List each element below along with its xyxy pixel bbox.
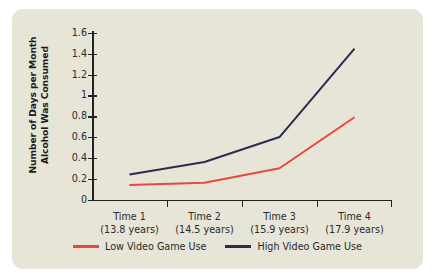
series-lines [92,31,392,201]
legend-swatch-low [73,245,99,247]
y-tick-label: 0.8 [72,109,87,122]
y-tick-mark [88,54,97,55]
x-tick-mark [391,200,392,207]
axes: 00.20.40.60.811.21.41.6 Time 1(13.8 year… [92,31,392,201]
series-line [130,117,355,185]
chart-figure: Number of Days per Month Alcohol Was Con… [12,9,423,269]
y-tick-mark [88,179,97,180]
y-tick-label: 0 [81,193,87,206]
x-axis-label-age: (17.9 years) [307,224,403,237]
legend-label-high: High Video Game Use [257,241,362,252]
y-tick-label: 1.4 [72,47,87,60]
legend-swatch-high [225,245,251,247]
y-tick-label: 0.2 [72,172,87,185]
x-tick-mark [167,200,168,207]
legend-item-high: High Video Game Use [225,241,362,252]
chart-plot-area: Number of Days per Month Alcohol Was Con… [12,9,423,269]
x-axis-label: Time 4(17.9 years) [307,211,403,236]
x-axis-label-name: Time 4 [307,211,403,224]
y-tick-mark [88,200,97,201]
y-tick-mark [88,137,97,138]
y-tick-label: 1.2 [72,68,87,81]
y-axis-title-line1: Number of Days per Month [27,30,39,180]
y-axis-title: Number of Days per Month Alcohol Was Con… [27,30,51,180]
y-tick-label: 1 [81,88,87,101]
y-tick-mark [88,158,97,159]
y-tick-label: 1.6 [72,26,87,39]
legend-item-low: Low Video Game Use [73,241,206,252]
y-tick-mark [88,116,97,117]
y-tick-label: 0.6 [72,130,87,143]
y-axis-title-line2: Alcohol Was Consumed [39,30,51,180]
series-line [130,49,355,175]
y-tick-mark [88,95,97,96]
chart-legend: Low Video Game Use High Video Game Use [12,241,423,252]
y-tick-label: 0.4 [72,151,87,164]
x-tick-mark [242,200,243,207]
y-tick-mark [88,33,97,34]
legend-label-low: Low Video Game Use [105,241,206,252]
x-tick-mark [317,200,318,207]
y-tick-mark [88,75,97,76]
